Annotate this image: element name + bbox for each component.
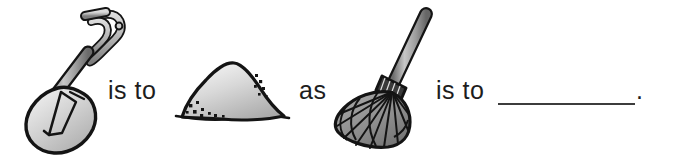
analogy-worksheet: is to bbox=[0, 0, 674, 159]
rake-tines bbox=[335, 92, 410, 148]
shovel-blade bbox=[26, 87, 96, 153]
sentence-period: . bbox=[636, 78, 643, 103]
relation-text-is-to-first: is to bbox=[108, 78, 156, 103]
rake-icon bbox=[330, 4, 445, 156]
relation-text-is-to-second: is to bbox=[436, 78, 484, 103]
connector-text-as: as bbox=[299, 78, 326, 103]
dirt-pile-icon bbox=[170, 52, 295, 127]
answer-blank-line[interactable] bbox=[498, 103, 635, 105]
rake-handle bbox=[393, 14, 426, 84]
